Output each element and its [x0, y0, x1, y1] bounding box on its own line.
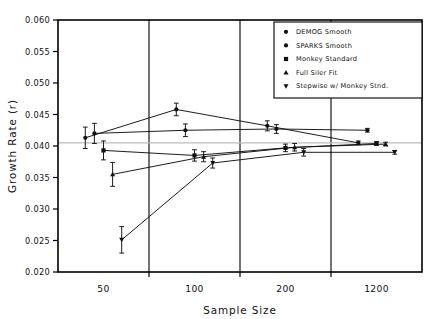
y-tick-label: 0.035 [25, 173, 50, 183]
data-point-marker [101, 148, 105, 152]
data-point-marker [92, 131, 96, 135]
y-tick-label: 0.055 [25, 47, 50, 57]
y-tick-label: 0.045 [25, 110, 50, 120]
y-axis-title: Growth Rate (r) [6, 99, 18, 193]
legend-marker [284, 30, 288, 34]
y-tick-label: 0.060 [25, 15, 50, 25]
legend-entry-label: Stepwise w/ Monkey Stnd. [296, 82, 388, 90]
data-series [110, 142, 388, 187]
growth-rate-chart: 0.0600.0550.0500.0450.0400.0350.0300.025… [0, 0, 430, 319]
data-series [119, 149, 397, 254]
data-point-marker [83, 136, 87, 140]
x-tick-label: 200 [276, 283, 294, 294]
data-series [92, 123, 370, 143]
data-point-marker [183, 128, 187, 132]
x-tick-label: 1200 [364, 283, 389, 294]
data-point-marker [119, 238, 124, 243]
x-axis-title: Sample Size [203, 304, 277, 316]
data-point-marker [174, 107, 178, 111]
chart-legend: DEMOG SmoothSPARKS SmoothMonkey Standard… [274, 22, 422, 98]
x-tick-label: 100 [185, 283, 203, 294]
legend-marker [284, 43, 288, 47]
y-tick-label: 0.030 [25, 204, 50, 214]
data-point-marker [265, 124, 269, 128]
chart-canvas: 0.0600.0550.0500.0450.0400.0350.0300.025… [0, 0, 430, 319]
legend-entry-label: Full Siler Fit [296, 69, 337, 77]
legend-entry-label: Monkey Standard [296, 55, 357, 63]
y-tick-label: 0.025 [25, 236, 50, 246]
y-tick-label: 0.020 [25, 267, 50, 277]
legend-entry-label: DEMOG Smooth [296, 28, 352, 36]
legend-entry-label: SPARKS Smooth [296, 42, 352, 50]
x-axis-tick-labels: 501002001200 [97, 283, 388, 294]
y-tick-label: 0.040 [25, 141, 50, 151]
x-tick-label: 50 [97, 283, 109, 294]
data-series [83, 103, 361, 148]
data-point-marker [192, 153, 196, 157]
legend-marker [284, 57, 288, 61]
y-axis-tick-labels: 0.0600.0550.0500.0450.0400.0350.0300.025… [25, 15, 50, 277]
y-tick-label: 0.050 [25, 78, 50, 88]
data-point-marker [365, 128, 369, 132]
data-point-marker [274, 127, 278, 131]
